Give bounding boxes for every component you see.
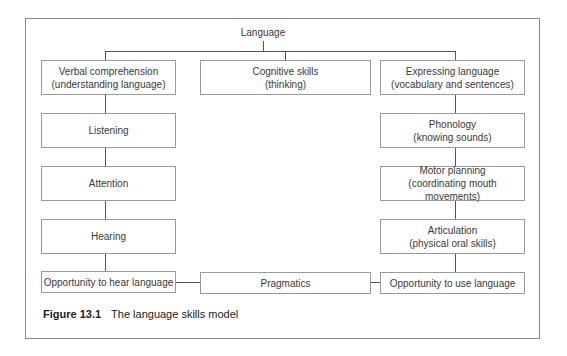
root-node-language: Language [213,27,313,38]
connector-to-expressing [455,51,456,60]
node-subtitle: (knowing sounds) [413,131,491,144]
caption-label: Figure 13.1 [43,308,101,320]
node-title: Phonology [429,118,476,131]
node-expressing-language: Expressing language (vocabulary and sent… [380,60,525,95]
node-listening: Listening [41,113,176,148]
node-title: Opportunity to hear language [44,276,174,289]
node-subtitle: (coordinating mouth movements) [381,177,524,203]
node-motor-planning: Motor planning (coordinating mouth movem… [380,166,525,201]
connector-bottom-left [176,282,200,283]
node-pragmatics: Pragmatics [200,272,371,294]
node-title: Articulation [428,224,477,237]
node-cognitive-skills: Cognitive skills (thinking) [200,60,371,95]
figure-caption: Figure 13.1The language skills model [43,308,238,320]
node-title: Cognitive skills [252,65,318,78]
node-title: Pragmatics [260,277,310,290]
node-verbal-comprehension: Verbal comprehension (understanding lang… [41,60,176,95]
node-opportunity-to-use: Opportunity to use language [380,272,525,294]
node-title: Verbal comprehension [59,65,159,78]
connector-bottom-right [371,282,380,283]
connector-root-down [263,41,264,51]
node-phonology: Phonology (knowing sounds) [380,113,525,148]
node-subtitle: (thinking) [265,78,306,91]
node-subtitle: (physical oral skills) [409,237,496,250]
node-title: Opportunity to use language [390,277,516,290]
node-attention: Attention [41,166,176,201]
node-title: Hearing [91,230,126,243]
node-subtitle: (vocabulary and sentences) [391,78,514,91]
node-title: Expressing language [406,65,499,78]
node-title: Listening [88,124,128,137]
connector-top-horizontal [105,51,456,52]
connector-to-verbal [105,51,106,60]
node-articulation: Articulation (physical oral skills) [380,219,525,254]
node-opportunity-to-hear: Opportunity to hear language [41,271,176,293]
node-title: Attention [89,177,128,190]
node-title: Motor planning [419,164,485,177]
caption-text: The language skills model [111,308,238,320]
node-hearing: Hearing [41,219,176,254]
node-subtitle: (understanding language) [52,78,166,91]
connector-to-cognitive [285,51,286,60]
